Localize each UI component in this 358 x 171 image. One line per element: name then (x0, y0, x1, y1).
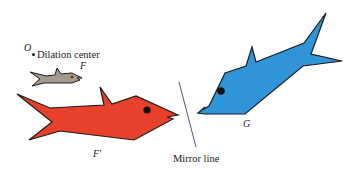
dilation-center-dot (32, 53, 35, 56)
dilation-center-label: Dilation center (37, 50, 100, 61)
dilation-point-label: O (24, 43, 31, 53)
fish-f-label: F (80, 61, 86, 71)
fish-f-body (30, 68, 82, 86)
fish-g-eye (217, 87, 225, 95)
fish-f-eye (71, 76, 74, 79)
fish-f-prime-body (17, 87, 178, 140)
fish-f (30, 68, 82, 86)
diagram-canvas (0, 0, 358, 171)
transformation-diagram: O Dilation center F F′ G Mirror line (0, 0, 358, 171)
mirror-line (179, 82, 196, 147)
fish-g-label: G (243, 119, 250, 129)
fish-f-prime (17, 87, 178, 140)
fish-g-body (198, 13, 342, 114)
fish-f-prime-label: F′ (93, 149, 101, 159)
fish-f-prime-eye (143, 106, 150, 113)
fish-g (198, 13, 342, 114)
mirror-line-label: Mirror line (173, 154, 219, 165)
